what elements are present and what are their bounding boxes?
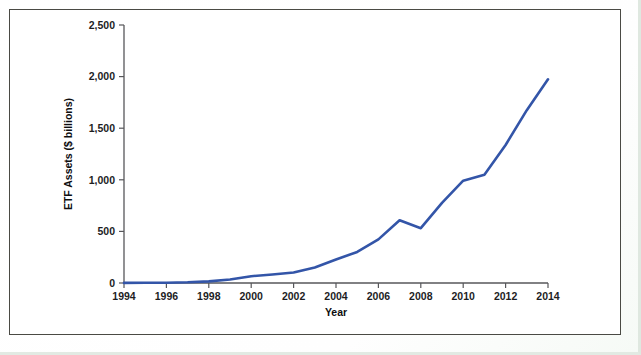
figure-frame	[9, 9, 621, 335]
figure-root: 05001,0001,5002,0002,500 ETF Assets ($ b…	[0, 0, 641, 355]
